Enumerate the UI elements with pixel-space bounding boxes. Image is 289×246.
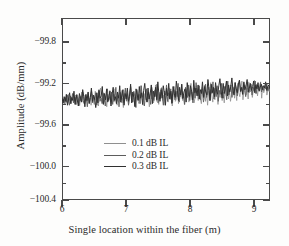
- x-tick-major-top: [253, 18, 255, 25]
- legend-item-label: 0.3 dB IL: [132, 161, 168, 173]
- x-tick-major-top: [189, 18, 191, 25]
- chart-legend: 0.1 dB IL0.2 dB IL0.3 dB IL: [104, 138, 168, 173]
- x-axis-ticks: 6789: [0, 0, 289, 246]
- y-axis-title: Amplitude (dB/mm): [15, 31, 26, 181]
- legend-item-label: 0.2 dB IL: [132, 150, 168, 162]
- x-tick-major-top: [125, 18, 127, 25]
- legend-line-swatch: [104, 166, 126, 167]
- legend-item: 0.2 dB IL: [104, 150, 168, 162]
- x-tick-label: 9: [239, 204, 269, 214]
- x-axis-title: Single location within the fiber (m): [0, 224, 289, 235]
- x-tick-label: 8: [175, 204, 205, 214]
- x-tick-label: 7: [111, 204, 141, 214]
- legend-item: 0.1 dB IL: [104, 138, 168, 150]
- legend-item-label: 0.1 dB IL: [132, 138, 168, 150]
- legend-line-swatch: [104, 143, 126, 144]
- legend-line-swatch: [104, 155, 126, 156]
- legend-item: 0.3 dB IL: [104, 161, 168, 173]
- figure-container: −99.8−99.2−99.6−100.0−100.4 6789 Amplitu…: [0, 0, 289, 246]
- x-tick-label: 6: [47, 204, 77, 214]
- x-tick-major-top: [61, 18, 63, 25]
